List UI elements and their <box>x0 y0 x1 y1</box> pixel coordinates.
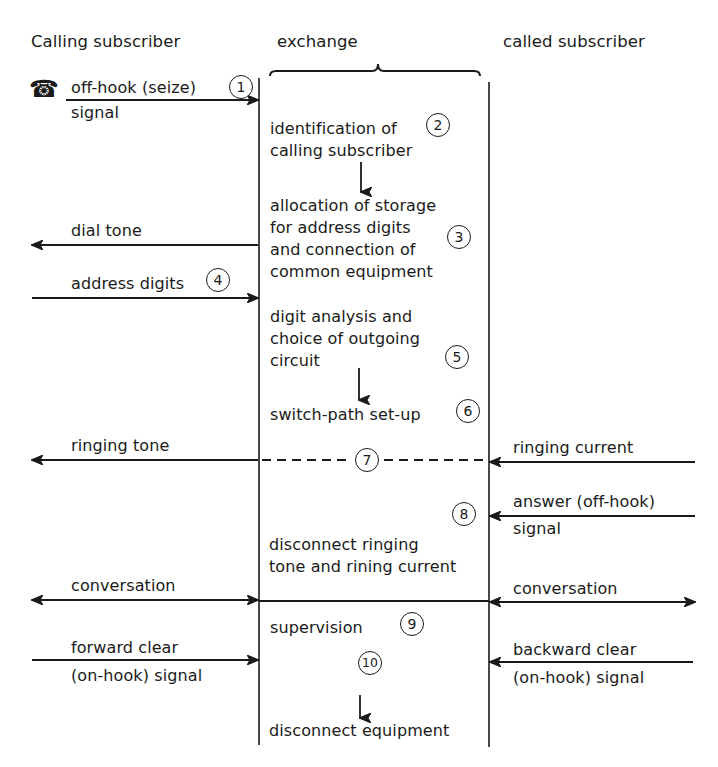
step-6-badge: 6 <box>456 399 480 423</box>
conversation-left-label: conversation <box>71 576 176 596</box>
step-6-line1: switch-path set-up <box>270 405 421 425</box>
step-3-line1: allocation of storage <box>270 196 436 216</box>
step-2-line1: identification of <box>270 119 397 139</box>
address-digits-label: address digits <box>71 274 184 294</box>
header-calling-subscriber: Calling subscriber <box>31 32 180 52</box>
header-called-subscriber: called subscriber <box>503 32 645 52</box>
step-4-badge: 4 <box>206 268 230 292</box>
step-8-badge: 8 <box>452 502 476 526</box>
off-hook-label-line2: signal <box>71 103 119 123</box>
telephone-icon: ☎ <box>29 76 59 102</box>
backward-clear-label-line2: (on-hook) signal <box>513 668 644 688</box>
exchange-brace <box>270 64 480 76</box>
step-8-line1: disconnect ringing <box>269 535 419 555</box>
answer-label: answer (off-hook) <box>513 492 655 512</box>
step-10-label: disconnect equipment <box>269 721 449 741</box>
step-5-line2: choice of outgoing <box>270 329 420 349</box>
conversation-right-label: conversation <box>513 579 618 599</box>
answer-label-line2: signal <box>513 519 561 539</box>
header-exchange: exchange <box>277 32 358 52</box>
step-1-badge: 1 <box>229 75 253 99</box>
step-8-line2: tone and rining current <box>269 557 456 577</box>
step-5-line1: digit analysis and <box>270 307 412 327</box>
step-9-label: supervision <box>270 618 363 638</box>
step-2-line2: calling subscriber <box>270 141 413 161</box>
ringing-tone-label: ringing tone <box>71 436 169 456</box>
step-7-badge: 7 <box>355 448 379 472</box>
backward-clear-label: backward clear <box>513 640 636 660</box>
step-5-badge: 5 <box>445 345 469 369</box>
dial-tone-label: dial tone <box>71 221 142 241</box>
step-5-line3: circuit <box>270 351 320 371</box>
forward-clear-label: forward clear <box>71 638 178 658</box>
step-9-badge: 9 <box>400 612 424 636</box>
step-3-line3: and connection of <box>270 240 416 260</box>
off-hook-label: off-hook (seize) <box>71 78 196 98</box>
step-2-badge: 2 <box>426 113 450 137</box>
step-3-badge: 3 <box>447 225 471 249</box>
call-setup-sequence-diagram: Calling subscriber exchange called subsc… <box>0 0 718 767</box>
forward-clear-label-line2: (on-hook) signal <box>71 666 202 686</box>
ringing-current-label: ringing current <box>513 438 633 458</box>
step-3-line4: common equipment <box>270 262 433 282</box>
step-10-badge: 10 <box>358 651 382 675</box>
step-3-line2: for address digits <box>270 218 411 238</box>
